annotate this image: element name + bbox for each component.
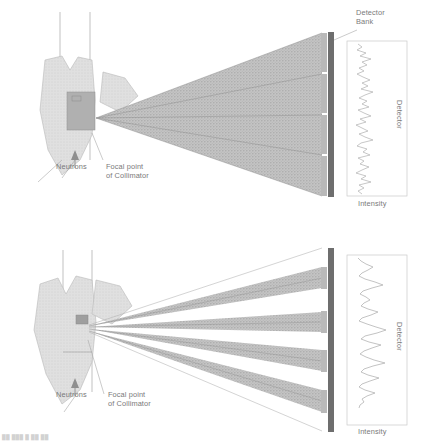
detector-bank-leader [334, 30, 357, 40]
panel-collimated-graphic [0, 222, 426, 445]
panel-collimated: Neutrons Focal point of Collimator Detec… [0, 222, 426, 444]
focal-point-label: Focal point of Collimator [106, 162, 149, 180]
neutrons-label: Neutrons [56, 390, 87, 399]
detector-bar [328, 248, 334, 432]
focal-point-label: Focal point of Collimator [108, 390, 151, 408]
footer-text-fragment: ██ ███ █ ██ ██ [2, 434, 49, 440]
beam-wedge-2 [89, 312, 322, 332]
detector-bank-label: Detector Bank [356, 8, 385, 26]
panel-uncollimated-graphic [0, 0, 426, 222]
intensity-axis-label: Intensity [358, 199, 386, 208]
detector-bar [328, 32, 334, 197]
sample-core [76, 315, 88, 324]
detector-bank [321, 248, 334, 432]
detector-bank [321, 32, 334, 197]
neutron-collimator-figure: Detector Bank Neutrons Focal point of Co… [0, 0, 426, 445]
detector-axis-label: Detector [395, 322, 404, 351]
intensity-axis-label: Intensity [358, 427, 386, 436]
neutrons-label: Neutrons [56, 162, 87, 171]
panel-uncollimated: Detector Bank Neutrons Focal point of Co… [0, 0, 426, 222]
detector-axis-label: Detector [395, 100, 404, 129]
